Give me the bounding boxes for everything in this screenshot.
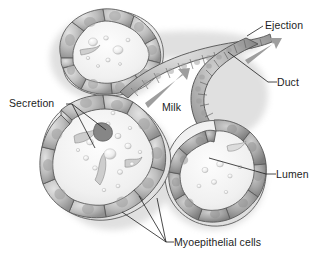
mammary-alveoli-illustration (0, 0, 314, 258)
label-lumen: Lumen (276, 169, 309, 180)
alveolus-lower-right (165, 120, 267, 226)
figure-canvas: Ejection Duct Lumen Secretion Milk Myoep… (0, 0, 314, 258)
label-secretion: Secretion (9, 98, 54, 109)
label-milk: Milk (162, 102, 181, 113)
leader-ejection (247, 26, 263, 36)
label-myoepithelial-cells: Myoepithelial cells (174, 237, 261, 248)
label-ejection: Ejection (265, 20, 303, 31)
label-duct: Duct (277, 77, 299, 88)
